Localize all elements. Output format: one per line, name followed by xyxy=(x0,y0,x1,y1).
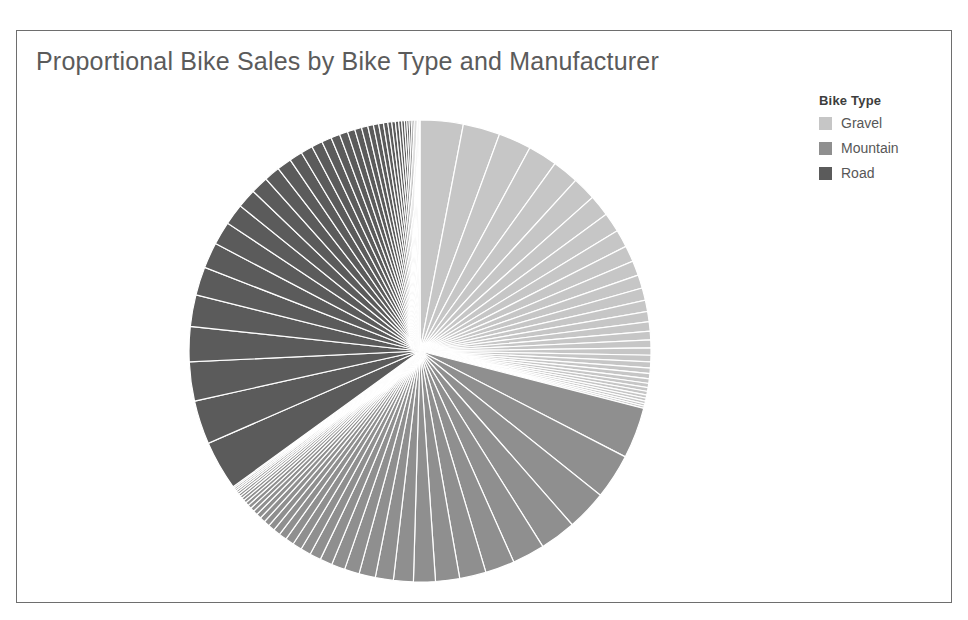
legend-swatch-gravel xyxy=(819,117,832,130)
figure-frame: Proportional Bike Sales by Bike Type and… xyxy=(16,30,952,603)
page-title: Proportional Bike Sales by Bike Type and… xyxy=(36,47,659,76)
pie-chart-svg xyxy=(185,116,655,586)
legend-swatch-road xyxy=(819,167,832,180)
legend: Bike Type Gravel Mountain Road xyxy=(803,93,943,190)
legend-label-gravel: Gravel xyxy=(841,115,882,131)
legend-label-mountain: Mountain xyxy=(841,140,899,156)
legend-title: Bike Type xyxy=(819,93,943,108)
pie-slice-group xyxy=(189,120,651,582)
legend-swatch-mountain xyxy=(819,142,832,155)
legend-item-gravel[interactable]: Gravel xyxy=(819,115,943,131)
scan-artifact-bottom xyxy=(0,604,968,620)
legend-item-mountain[interactable]: Mountain xyxy=(819,140,943,156)
scan-artifact-top xyxy=(0,0,968,14)
legend-item-road[interactable]: Road xyxy=(819,165,943,181)
pie-chart xyxy=(185,116,655,586)
legend-label-road: Road xyxy=(841,165,874,181)
